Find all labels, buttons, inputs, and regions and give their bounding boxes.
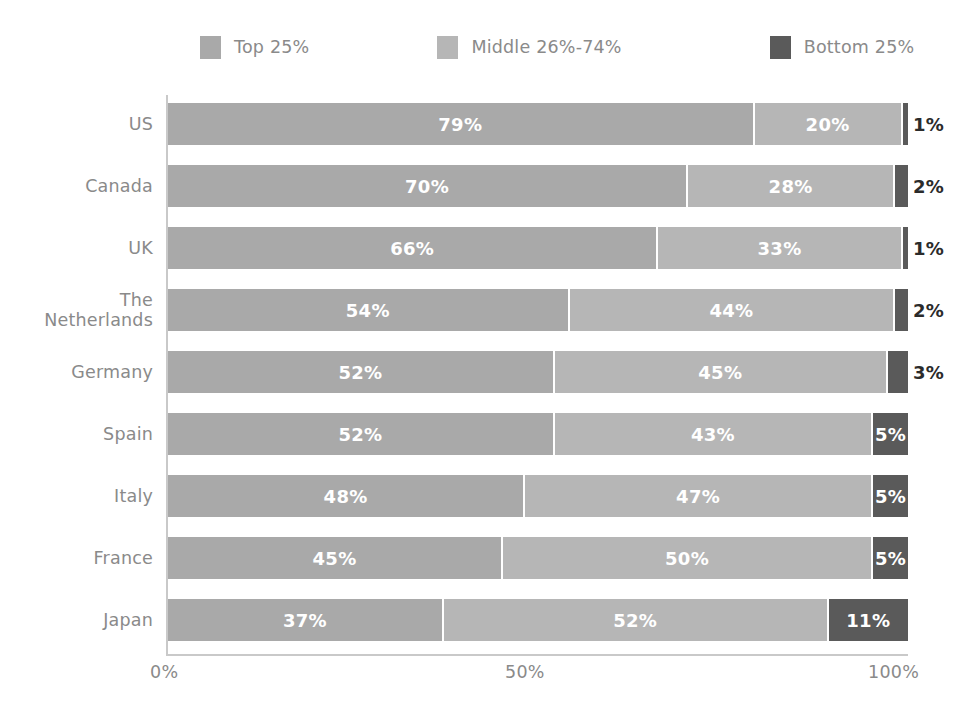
bar-segment-middle[interactable]: 50% [501,537,871,579]
chart-row: Germany52%45%3% [0,351,966,393]
legend-label: Bottom 25% [804,37,915,57]
segment-value-label: 2% [913,176,944,197]
bar-track: 45%50%5% [168,537,908,579]
segment-value-label: 50% [665,548,709,569]
x-axis-line [166,654,908,656]
legend-label: Middle 26%-74% [471,37,621,57]
bar-track: 48%47%5% [168,475,908,517]
segment-value-label: 33% [757,238,801,259]
bar-segment-top[interactable]: 54% [168,289,568,331]
segment-value-label: 5% [875,548,906,569]
bar-segment-top[interactable]: 52% [168,413,553,455]
bar-segment-middle[interactable]: 45% [553,351,886,393]
bar-segment-middle[interactable]: 33% [656,227,900,269]
legend-item-0[interactable]: Top 25% [200,36,309,59]
plot-area: US79%20%1%Canada70%28%2%UK66%33%1%The Ne… [0,95,966,660]
x-tick-50: 50% [505,662,545,682]
chart-legend: Top 25%Middle 26%-74%Bottom 25% [168,30,928,64]
x-tick-0: 0% [150,662,178,682]
segment-value-label: 45% [313,548,357,569]
bar-segment-bottom[interactable]: 3% [886,351,908,393]
chart-row: The Netherlands54%44%2% [0,289,966,331]
segment-value-label: 48% [324,486,368,507]
bar-segment-top[interactable]: 70% [168,165,686,207]
bar-segment-top[interactable]: 45% [168,537,501,579]
chart-row: Italy48%47%5% [0,475,966,517]
bar-segment-bottom[interactable]: 1% [901,227,908,269]
segment-value-label: 47% [676,486,720,507]
legend-item-2[interactable]: Bottom 25% [770,36,915,59]
segment-value-label: 11% [846,610,890,631]
x-axis-tick-labels: 0% 50% 100% [0,662,966,692]
segment-value-label: 1% [913,238,944,259]
bar-segment-bottom[interactable]: 11% [827,599,908,641]
bar-segment-bottom[interactable]: 1% [901,103,908,145]
segment-value-label: 44% [709,300,753,321]
bar-track: 52%45%3% [168,351,908,393]
bar-segment-middle[interactable]: 52% [442,599,827,641]
segment-value-label: 52% [613,610,657,631]
bar-segment-middle[interactable]: 47% [523,475,871,517]
bar-segment-top[interactable]: 66% [168,227,656,269]
stacked-bar-chart: Top 25%Middle 26%-74%Bottom 25% US79%20%… [0,0,966,713]
chart-row: UK66%33%1% [0,227,966,269]
legend-swatch-icon [200,36,221,59]
segment-value-label: 3% [913,362,944,383]
segment-value-label: 52% [338,424,382,445]
chart-row: Canada70%28%2% [0,165,966,207]
category-label: Japan [0,599,153,641]
chart-row: France45%50%5% [0,537,966,579]
legend-label: Top 25% [234,37,309,57]
category-label: Germany [0,351,153,393]
bar-segment-top[interactable]: 52% [168,351,553,393]
legend-swatch-icon [437,36,458,59]
bar-segment-bottom[interactable]: 5% [871,413,908,455]
segment-value-label: 5% [875,486,906,507]
category-label: Italy [0,475,153,517]
bar-segment-middle[interactable]: 44% [568,289,894,331]
bar-track: 54%44%2% [168,289,908,331]
category-label: The Netherlands [0,289,153,331]
segment-value-label: 70% [405,176,449,197]
segment-value-label: 37% [283,610,327,631]
segment-value-label: 54% [346,300,390,321]
bar-track: 52%43%5% [168,413,908,455]
bar-segment-bottom[interactable]: 2% [893,289,908,331]
segment-value-label: 43% [691,424,735,445]
bar-segment-bottom[interactable]: 5% [871,537,908,579]
category-label: US [0,103,153,145]
category-label: Canada [0,165,153,207]
chart-row: US79%20%1% [0,103,966,145]
category-label: France [0,537,153,579]
bar-track: 70%28%2% [168,165,908,207]
bar-segment-top[interactable]: 37% [168,599,442,641]
bar-segment-middle[interactable]: 28% [686,165,893,207]
segment-value-label: 45% [698,362,742,383]
segment-value-label: 2% [913,300,944,321]
bar-track: 79%20%1% [168,103,908,145]
bar-segment-middle[interactable]: 43% [553,413,871,455]
bar-segment-bottom[interactable]: 5% [871,475,908,517]
segment-value-label: 20% [806,114,850,135]
legend-item-1[interactable]: Middle 26%-74% [437,36,621,59]
bar-segment-middle[interactable]: 20% [753,103,901,145]
chart-row: Spain52%43%5% [0,413,966,455]
bar-segment-top[interactable]: 48% [168,475,523,517]
segment-value-label: 1% [913,114,944,135]
legend-swatch-icon [770,36,791,59]
category-label: UK [0,227,153,269]
segment-value-label: 28% [769,176,813,197]
segment-value-label: 5% [875,424,906,445]
bar-segment-top[interactable]: 79% [168,103,753,145]
segment-value-label: 52% [338,362,382,383]
segment-value-label: 66% [390,238,434,259]
category-label: Spain [0,413,153,455]
x-tick-100: 100% [868,662,919,682]
chart-row: Japan37%52%11% [0,599,966,641]
bar-segment-bottom[interactable]: 2% [893,165,908,207]
bar-track: 66%33%1% [168,227,908,269]
bar-track: 37%52%11% [168,599,908,641]
segment-value-label: 79% [438,114,482,135]
